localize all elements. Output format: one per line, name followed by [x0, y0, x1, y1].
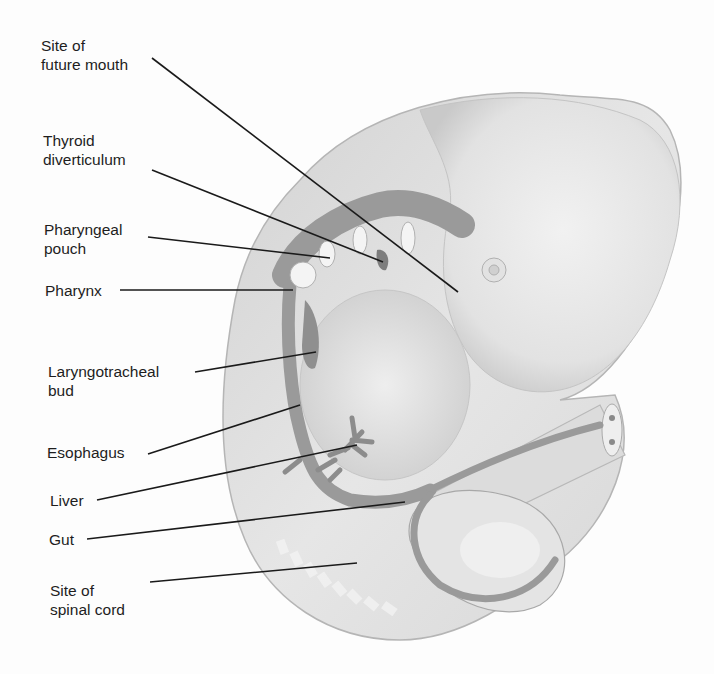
- label-pharyngeal-pouch: Pharyngeal pouch: [44, 220, 122, 258]
- label-esophagus: Esophagus: [47, 443, 125, 462]
- label-thyroid-diverticulum: Thyroid diverticulum: [43, 131, 126, 169]
- label-site-of-future-mouth: Site of future mouth: [41, 36, 128, 74]
- label-pharynx: Pharynx: [45, 281, 102, 300]
- embryo-diagram: Site of future mouth Thyroid diverticulu…: [0, 0, 714, 674]
- label-liver: Liver: [50, 491, 84, 510]
- label-laryngotracheal-bud: Laryngotracheal bud: [48, 362, 159, 400]
- embryo-illustration: [0, 0, 714, 674]
- label-site-of-spinal-cord: Site of spinal cord: [50, 581, 125, 619]
- label-gut: Gut: [49, 530, 74, 549]
